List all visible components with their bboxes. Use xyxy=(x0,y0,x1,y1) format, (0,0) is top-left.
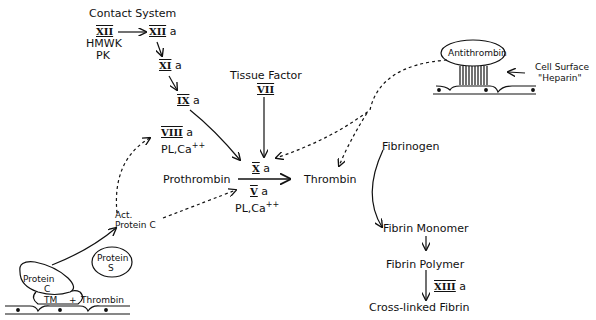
antithrombin-label: Antithrombin xyxy=(448,47,507,59)
arrow-fibrinogen-to-monomer xyxy=(372,150,383,227)
prothrombin-label: Prothrombin xyxy=(163,174,230,186)
tm-thrombin-label: Thrombin xyxy=(81,294,124,306)
factor-va: V a xyxy=(250,186,268,198)
fibrin-polymer-label: Fibrin Polymer xyxy=(386,259,464,271)
dashed-arrow-actpc-to-va xyxy=(163,190,236,218)
viiia-cofactors-text: PL,Ca xyxy=(161,143,192,156)
tissue-factor-title: Tissue Factor xyxy=(230,70,302,82)
thrombin-label: Thrombin xyxy=(304,174,356,186)
heparin-bars xyxy=(460,66,487,85)
factor-xa-suffix: a xyxy=(263,162,270,175)
factor-vii-roman: VII xyxy=(257,84,274,95)
act-protein-c-line2: Protein C xyxy=(115,219,156,231)
viiia-charge: ++ xyxy=(192,141,205,150)
crosslinked-fibrin-label: Cross-linked Fibrin xyxy=(369,302,470,314)
factor-xiiia: XIII a xyxy=(434,281,466,293)
factor-xii-roman: XII xyxy=(96,26,113,37)
factor-ixa-roman: IX xyxy=(177,95,189,106)
factor-xiiia-suffix: a xyxy=(459,280,466,293)
factor-vii: VII xyxy=(257,84,274,96)
coagulation-cascade-diagram: Contact System XII XII a HMWK PK XI a IX… xyxy=(0,0,596,320)
cell-surface-top xyxy=(433,86,536,94)
va-cofactors-text: PL,Ca xyxy=(235,202,266,215)
dashed-arrow-antithrombin-to-thrombin xyxy=(339,113,367,166)
factor-xa-roman: X xyxy=(252,163,260,174)
factor-xiiia-roman: XIII xyxy=(434,281,456,292)
tm-plus: + xyxy=(69,294,77,306)
factor-xiia-suffix: a xyxy=(170,25,177,38)
pk-label: PK xyxy=(96,50,110,62)
factor-viiia-suffix: a xyxy=(186,126,193,139)
cell-surface-bottom xyxy=(5,306,130,314)
factor-xia-suffix: a xyxy=(175,59,182,72)
heparin-pointer-line xyxy=(508,72,525,73)
factor-va-roman: V xyxy=(250,186,258,197)
va-charge: ++ xyxy=(266,200,279,209)
factor-viiia: VIII a xyxy=(161,127,193,139)
fibrinogen-label: Fibrinogen xyxy=(382,141,440,153)
factor-xa: X a xyxy=(252,163,270,175)
factor-xiia: XII a xyxy=(149,26,176,38)
dashed-arrow-actpc-to-viiia xyxy=(116,138,150,213)
factor-va-suffix: a xyxy=(261,185,268,198)
factor-ixa: IX a xyxy=(177,95,200,107)
heparin-label: "Heparin" xyxy=(538,72,582,84)
factor-viiia-roman: VIII xyxy=(161,127,183,138)
factor-xiia-roman: XII xyxy=(149,26,166,37)
viiia-cofactors: PL,Ca++ xyxy=(161,140,205,156)
factor-xia-roman: XI xyxy=(159,60,171,71)
arrow-xia-to-ixa xyxy=(169,76,177,90)
factor-xia: XI a xyxy=(159,60,182,72)
fibrin-monomer-label: Fibrin Monomer xyxy=(383,223,469,235)
arrow-xiia-to-xia xyxy=(157,42,162,56)
tm-label: TM xyxy=(44,294,57,306)
factor-ixa-suffix: a xyxy=(193,94,200,107)
contact-system-title: Contact System xyxy=(89,8,176,20)
va-cofactors: PL,Ca++ xyxy=(235,199,279,215)
protein-s-line2: S xyxy=(108,262,114,274)
